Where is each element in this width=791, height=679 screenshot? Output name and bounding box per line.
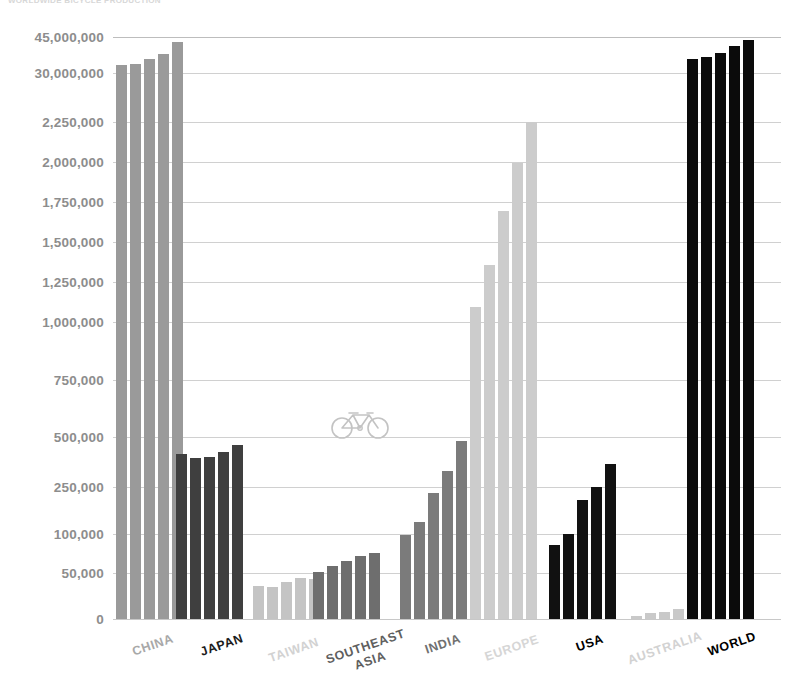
bar [442,471,453,619]
bar [190,458,201,619]
gridline [113,322,781,323]
bar [327,566,338,619]
bar [470,307,481,619]
bar [498,211,509,619]
gridline [113,73,781,74]
y-axis-tick-label: 750,000 [54,373,104,388]
bar [369,553,380,619]
bar [687,59,698,619]
bar [659,612,670,619]
bar [526,122,537,619]
bar [512,163,523,619]
bar [549,545,560,619]
gridline [113,122,781,123]
bar [158,54,169,619]
bicycle-production-chart: WORLDWIDE BICYCLE PRODUCTION 45,000,0003… [0,0,791,679]
y-axis-tick-label: 30,000,000 [34,66,104,81]
bar [281,582,292,619]
bar [484,265,495,619]
y-axis-tick-label: 1,250,000 [42,275,104,290]
bar [232,445,243,619]
y-axis-tick-label: 45,000,000 [34,30,104,45]
bar [116,65,127,619]
bar [267,587,278,619]
bar [605,464,616,619]
bar [313,572,324,619]
bar [563,534,574,619]
y-axis-tick-label: 500,000 [54,430,104,445]
bicycle-icon [329,405,391,439]
bar [428,493,439,619]
bar [577,500,588,619]
bar [414,522,425,619]
gridline [113,242,781,243]
bar [218,452,229,619]
bar [743,40,754,619]
bar [715,53,726,619]
y-axis-tick-label: 100,000 [54,527,104,542]
plot-area [113,37,781,619]
bar [673,609,684,619]
y-axis-tick-label: 1,750,000 [42,195,104,210]
y-axis-tick-label: 2,000,000 [42,155,104,170]
bar [355,556,366,619]
y-axis-tick-label: 1,000,000 [42,315,104,330]
bar [341,561,352,619]
y-axis-tick-label: 50,000 [62,566,105,581]
bar [400,535,411,619]
bar [701,57,712,619]
bar [456,441,467,619]
bar [176,454,187,619]
gridline [113,380,781,381]
bar [204,457,215,619]
gridline [113,437,781,438]
bar [591,487,602,619]
y-axis-tick-label: 1,500,000 [42,235,104,250]
y-axis-tick-label: 250,000 [54,480,104,495]
bar [144,59,155,619]
bar [253,586,264,619]
bar [130,64,141,619]
bar [295,578,306,619]
y-axis-tick-label: 2,250,000 [42,115,104,130]
bar [729,46,740,619]
y-axis-labels: 45,000,00030,000,0002,250,0002,000,0001,… [0,0,104,679]
gridline [113,162,781,163]
gridline [113,202,781,203]
y-axis-tick-label: 0 [96,612,104,627]
gridline [113,282,781,283]
x-axis-baseline [113,619,781,620]
gridline [113,37,781,38]
